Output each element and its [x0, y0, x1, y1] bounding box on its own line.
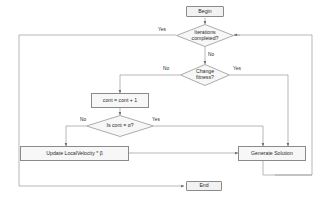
edge-label-fitness-yes: Yes	[233, 66, 241, 71]
node-iterations-completed-label: Iterations completed?	[176, 24, 234, 47]
node-cont-increment[interactable]: cont = cont + 1	[91, 93, 149, 108]
node-begin-label: Begin	[198, 9, 211, 14]
edge-iscont-no-to-update	[66, 126, 86, 146]
edge-fitness-no-to-cont	[120, 75, 180, 93]
node-is-cont-alpha-label: Is cont = α?	[86, 115, 154, 137]
edge-label-cont-yes: Yes	[152, 117, 160, 122]
node-cont-increment-label: cont = cont + 1	[103, 98, 137, 103]
node-generate-solution-label: Generate Solution	[251, 151, 293, 156]
node-update-local-velocity-label: Update LocalVelocity * β	[46, 151, 102, 156]
node-begin[interactable]: Begin	[186, 6, 224, 17]
edge-fitness-yes-to-generate	[230, 75, 288, 146]
node-change-fitness[interactable]: Change fitness?	[180, 64, 230, 86]
node-iterations-completed[interactable]: Iterations completed?	[176, 24, 234, 47]
edge-iscont-yes-to-generate	[154, 126, 263, 146]
edge-label-iterations-no: No	[208, 52, 214, 57]
node-end[interactable]: End	[186, 181, 222, 191]
flowchart-canvas: Begin Iterations completed? Change fitne…	[0, 0, 329, 197]
node-is-cont-alpha[interactable]: Is cont = α?	[86, 115, 154, 137]
edge-label-fitness-no: No	[163, 66, 169, 71]
node-iterations-line2: completed?	[192, 35, 219, 41]
edge-label-iterations-yes: Yes	[158, 27, 166, 32]
node-fitness-line2: fitness?	[196, 74, 214, 80]
edge-label-cont-no: No	[80, 117, 86, 122]
node-end-label: End	[199, 183, 208, 188]
node-generate-solution[interactable]: Generate Solution	[238, 146, 306, 161]
node-update-local-velocity[interactable]: Update LocalVelocity * β	[20, 146, 129, 161]
edge-generate-to-right-rail	[263, 161, 312, 175]
node-change-fitness-label: Change fitness?	[180, 64, 230, 86]
edge-iterations-yes-left-rail	[19, 35, 176, 186]
